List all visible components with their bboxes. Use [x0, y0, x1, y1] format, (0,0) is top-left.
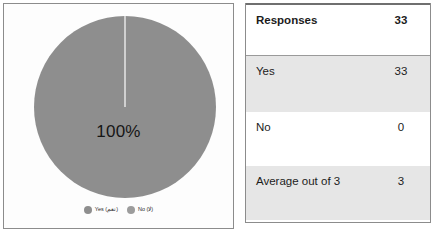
legend-swatch-no-icon: [127, 206, 135, 214]
table-cell-value-no: 0: [372, 112, 430, 133]
table-row-average: Average out of 3 3: [246, 166, 430, 220]
legend-item-no[interactable]: No (لا): [127, 206, 153, 214]
table-cell-label-average: Average out of 3: [246, 166, 372, 187]
pie-chart-plot-area: 100%: [4, 4, 233, 200]
table-row-yes: Yes 33: [246, 56, 430, 112]
pie-data-label-yes: 100%: [4, 122, 233, 142]
screenshot-root: 100% Yes (نعم) No (لا) Responses 33 Yes …: [0, 0, 441, 239]
table-cell-label-responses: Responses: [246, 5, 372, 26]
table-row-responses: Responses 33: [246, 3, 430, 56]
legend-swatch-yes-icon: [84, 206, 92, 214]
pie-chart-panel: 100% Yes (نعم) No (لا): [3, 3, 234, 229]
legend-item-yes[interactable]: Yes (نعم): [84, 206, 118, 214]
table-row-no: No 0: [246, 112, 430, 166]
table-cell-value-average: 3: [372, 166, 430, 187]
table-cell-value-responses: 33: [372, 5, 430, 26]
summary-table: Responses 33 Yes 33 No 0 Average out of …: [245, 3, 431, 223]
table-cell-label-no: No: [246, 112, 372, 133]
chart-legend: Yes (نعم) No (لا): [4, 206, 233, 214]
legend-label-yes: Yes (نعم): [95, 207, 118, 213]
legend-label-no: No (لا): [138, 207, 153, 213]
pie-chart-svg: [4, 4, 233, 200]
table-cell-label-yes: Yes: [246, 56, 372, 77]
table-cell-value-yes: 33: [372, 56, 430, 77]
